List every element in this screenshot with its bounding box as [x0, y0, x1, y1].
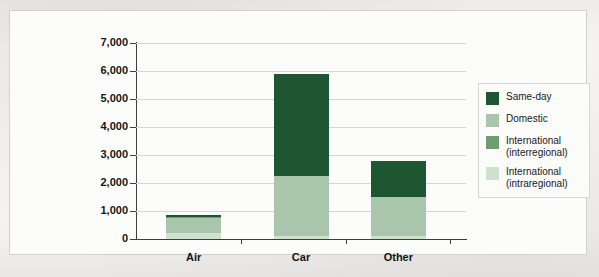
bar-segment — [371, 236, 426, 239]
y-axis-tick-mark — [130, 71, 136, 72]
legend-swatch-icon — [486, 114, 499, 127]
y-axis-tick-label: 5,000 — [72, 92, 128, 104]
bar-segment — [166, 217, 221, 218]
bar-segment — [371, 197, 426, 236]
x-axis-tick-mark — [241, 239, 242, 244]
legend-item: International (intraregional) — [486, 166, 584, 189]
y-axis-tick-mark — [130, 43, 136, 44]
y-axis-tick-mark — [130, 239, 136, 240]
y-axis-tick-mark — [130, 127, 136, 128]
plot-area — [136, 43, 466, 239]
y-axis-tick-mark — [130, 211, 136, 212]
bar-segment — [274, 74, 329, 176]
chart-legend: Same-dayDomesticInternational (interregi… — [478, 83, 590, 198]
bar-segment — [166, 218, 221, 233]
bar-segment — [274, 176, 329, 236]
y-axis-tick-label: 2,000 — [72, 176, 128, 188]
legend-label: Domestic — [506, 113, 548, 125]
y-axis-tick-labels: 7,0006,0005,0004,0003,0002,0001,0000 — [68, 11, 128, 277]
legend-label: International (interregional) — [506, 135, 568, 158]
bar-segment — [166, 215, 221, 217]
x-axis-label-other: Other — [353, 251, 443, 263]
y-axis-tick-label: 0 — [72, 232, 128, 244]
legend-swatch-icon — [486, 167, 499, 180]
y-axis-tick-label: 6,000 — [72, 64, 128, 76]
bar-other — [371, 43, 426, 239]
chart-figure-panel: Trips (million) 7,0006,0005,0004,0003,00… — [9, 10, 587, 255]
x-axis-tick-mark — [450, 239, 451, 244]
legend-label: International (intraregional) — [506, 166, 568, 189]
legend-swatch-icon — [486, 92, 499, 105]
legend-label: Same-day — [506, 91, 552, 103]
bar-segment — [274, 236, 329, 239]
legend-item: Same-day — [486, 91, 584, 105]
y-axis-tick-mark — [130, 99, 136, 100]
x-axis-line — [136, 239, 467, 240]
bar-segment — [371, 161, 426, 197]
y-axis-tick-mark — [130, 183, 136, 184]
x-axis-label-air: Air — [149, 251, 239, 263]
y-axis-tick-label: 1,000 — [72, 204, 128, 216]
y-axis-tick-label: 4,000 — [72, 120, 128, 132]
legend-swatch-icon — [486, 136, 499, 149]
bar-air — [166, 43, 221, 239]
y-axis-tick-label: 3,000 — [72, 148, 128, 160]
legend-item: International (interregional) — [486, 135, 584, 158]
bar-car — [274, 43, 329, 239]
y-axis-tick-label: 7,000 — [72, 36, 128, 48]
y-axis-tick-mark — [130, 155, 136, 156]
legend-item: Domestic — [486, 113, 584, 127]
x-axis-label-car: Car — [256, 251, 346, 263]
x-axis-tick-mark — [346, 239, 347, 244]
bar-segment — [166, 233, 221, 239]
